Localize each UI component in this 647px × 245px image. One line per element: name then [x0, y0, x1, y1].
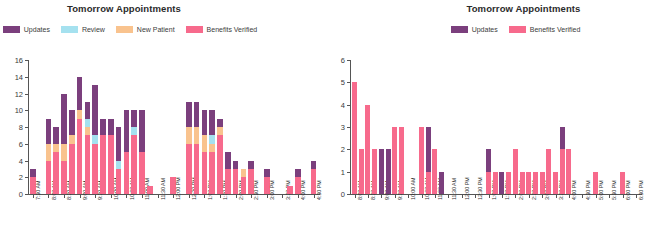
bar-segment-updates[interactable] [248, 161, 254, 169]
bar-column[interactable] [225, 60, 231, 194]
bar-column[interactable] [566, 60, 571, 194]
bar-column[interactable] [399, 60, 404, 194]
bar-column[interactable] [573, 60, 578, 194]
bar-column[interactable] [439, 60, 444, 194]
bar-segment-updates[interactable] [131, 110, 137, 127]
bar-column[interactable] [287, 60, 293, 194]
bar-segment-benefits-verified[interactable] [372, 149, 377, 194]
bar-segment-benefits-verified[interactable] [69, 144, 75, 194]
bar-column[interactable] [466, 60, 471, 194]
bar-column[interactable] [124, 60, 130, 194]
bar-column[interactable] [406, 60, 411, 194]
bar-column[interactable] [593, 60, 598, 194]
bar-segment-review[interactable] [131, 127, 137, 135]
bar-segment-benefits-verified[interactable] [399, 127, 404, 194]
bar-column[interactable] [365, 60, 370, 194]
bar-column[interactable] [600, 60, 605, 194]
bar-column[interactable] [311, 60, 317, 194]
bar-column[interactable] [607, 60, 612, 194]
bar-segment-updates[interactable] [439, 172, 444, 194]
bar-segment-review[interactable] [209, 135, 215, 143]
bar-column[interactable] [69, 60, 75, 194]
bar-segment-benefits-verified[interactable] [241, 177, 247, 194]
bar-column[interactable] [392, 60, 397, 194]
bar-segment-new-patient[interactable] [46, 144, 52, 161]
bar-segment-updates[interactable] [225, 152, 231, 169]
bar-column[interactable] [613, 60, 618, 194]
bar-segment-updates[interactable] [69, 110, 75, 135]
bar-segment-updates[interactable] [264, 169, 270, 177]
bar-segment-benefits-verified[interactable] [53, 152, 59, 194]
bar-column[interactable] [85, 60, 91, 194]
bar-column[interactable] [633, 60, 638, 194]
bar-column[interactable] [155, 60, 161, 194]
bar-column[interactable] [30, 60, 36, 194]
bar-column[interactable] [116, 60, 122, 194]
bar-column[interactable] [46, 60, 52, 194]
bar-column[interactable] [186, 60, 192, 194]
bar-column[interactable] [139, 60, 145, 194]
bar-column[interactable] [553, 60, 558, 194]
bar-segment-new-patient[interactable] [85, 127, 91, 135]
bar-column[interactable] [170, 60, 176, 194]
bar-segment-new-patient[interactable] [202, 135, 208, 152]
bar-column[interactable] [233, 60, 239, 194]
bar-column[interactable] [248, 60, 254, 194]
bar-column[interactable] [499, 60, 504, 194]
bar-segment-benefits-verified[interactable] [546, 149, 551, 194]
bar-column[interactable] [303, 60, 309, 194]
bar-column[interactable] [620, 60, 625, 194]
bar-segment-updates[interactable] [186, 102, 192, 127]
bar-column[interactable] [453, 60, 458, 194]
bar-column[interactable] [419, 60, 424, 194]
bar-segment-review[interactable] [92, 135, 98, 143]
bar-segment-updates[interactable] [116, 127, 122, 161]
bar-segment-updates[interactable] [46, 119, 52, 144]
bar-segment-benefits-verified[interactable] [426, 172, 431, 194]
bar-segment-new-patient[interactable] [69, 135, 75, 143]
bar-column[interactable] [280, 60, 286, 194]
bar-column[interactable] [61, 60, 67, 194]
bar-segment-benefits-verified[interactable] [100, 135, 106, 194]
bar-column[interactable] [202, 60, 208, 194]
bar-column[interactable] [272, 60, 278, 194]
bar-column[interactable] [194, 60, 200, 194]
bar-column[interactable] [560, 60, 565, 194]
bar-column[interactable] [412, 60, 417, 194]
bar-column[interactable] [493, 60, 498, 194]
bar-segment-new-patient[interactable] [61, 144, 67, 161]
bar-segment-updates[interactable] [202, 110, 208, 135]
bar-segment-updates[interactable] [139, 110, 145, 152]
bar-segment-updates[interactable] [486, 149, 491, 171]
bar-column[interactable] [359, 60, 364, 194]
bar-column[interactable] [459, 60, 464, 194]
bar-segment-updates[interactable] [100, 119, 106, 136]
bar-segment-benefits-verified[interactable] [147, 186, 153, 194]
bar-segment-benefits-verified[interactable] [359, 149, 364, 194]
bar-column[interactable] [486, 60, 491, 194]
bar-segment-review[interactable] [116, 161, 122, 169]
bar-segment-updates[interactable] [386, 149, 391, 194]
bar-column[interactable] [506, 60, 511, 194]
bar-column[interactable] [513, 60, 518, 194]
bar-segment-updates[interactable] [560, 127, 565, 149]
bar-segment-updates[interactable] [77, 77, 83, 111]
bar-column[interactable] [38, 60, 44, 194]
bar-column[interactable] [352, 60, 357, 194]
bar-column[interactable] [92, 60, 98, 194]
bar-segment-benefits-verified[interactable] [85, 135, 91, 194]
bar-column[interactable] [446, 60, 451, 194]
bar-segment-benefits-verified[interactable] [493, 172, 498, 194]
bar-segment-benefits-verified[interactable] [352, 82, 357, 194]
bar-segment-updates[interactable] [108, 119, 114, 136]
bar-segment-updates[interactable] [426, 127, 431, 172]
bar-column[interactable] [546, 60, 551, 194]
bar-column[interactable] [209, 60, 215, 194]
bar-column[interactable] [379, 60, 384, 194]
bar-segment-benefits-verified[interactable] [116, 169, 122, 194]
bar-segment-updates[interactable] [30, 169, 36, 177]
bar-segment-benefits-verified[interactable] [506, 172, 511, 194]
bar-column[interactable] [53, 60, 59, 194]
bar-segment-updates[interactable] [209, 110, 215, 135]
bar-segment-new-patient[interactable] [217, 127, 223, 135]
